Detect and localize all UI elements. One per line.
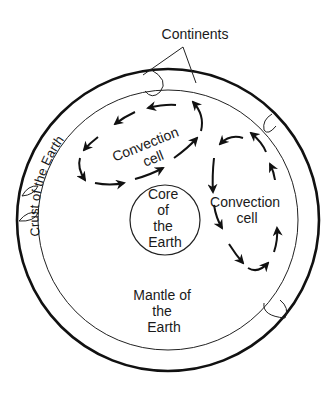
- convection-cell-2-label: Convection cell: [210, 194, 284, 226]
- continents-label: Continents: [162, 26, 229, 42]
- core-label: Core of the Earth: [148, 186, 182, 250]
- mantle-label: Mantle of the Earth: [133, 287, 194, 335]
- convection-cell-1-label: Convection cell: [110, 122, 191, 179]
- earth-convection-diagram: Continents Crust of the Earth Convection…: [0, 0, 333, 395]
- crust-label: Crust of the Earth: [27, 133, 67, 238]
- continents-leader-lines: [143, 47, 196, 83]
